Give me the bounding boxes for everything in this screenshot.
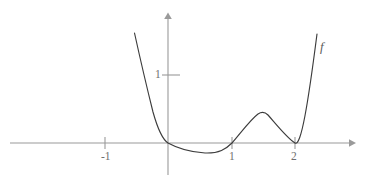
function-curve <box>135 33 318 153</box>
x-axis-label-minus1: -1 <box>101 150 111 162</box>
x-axis-label-2: 2 <box>291 150 297 162</box>
x-axis-arrowhead <box>349 139 356 147</box>
y-axis-label-1: 1 <box>155 68 161 80</box>
y-axis-arrowhead <box>164 13 172 20</box>
x-axis-label-1: 1 <box>229 150 235 162</box>
curve-name-label: f <box>320 40 324 53</box>
plot-canvas <box>0 0 367 183</box>
function-graph-figure: -1 1 2 1 f <box>0 0 367 183</box>
